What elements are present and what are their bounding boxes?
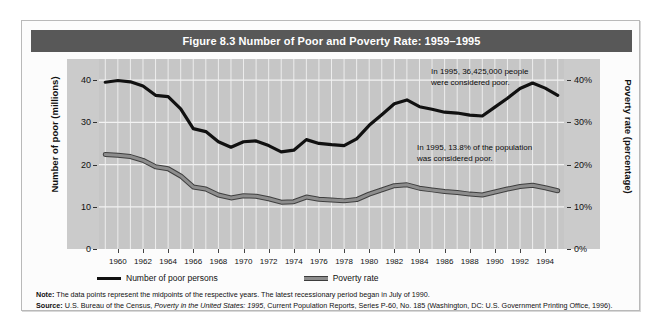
figure-container: Figure 8.3 Number of Poor and Poverty Ra… — [21, 20, 640, 311]
x-axis-ticks: 1960196219641966196819701972197419761978… — [99, 249, 564, 271]
y-axis-right-tick: 10% — [574, 202, 592, 212]
x-axis-tick-label: 1972 — [260, 257, 278, 266]
x-axis-tick-label: 1984 — [411, 257, 429, 266]
x-axis-tick-mark — [344, 249, 345, 253]
x-axis-tick-label: 1966 — [184, 257, 202, 266]
legend-item-poor-persons: Number of poor persons — [97, 273, 218, 283]
plot-block: Number of poor (millions) Poverty rate (… — [31, 59, 632, 264]
footnote-note-text: The data points represent the midpoints … — [54, 290, 429, 299]
y-axis-right-tick: 30% — [574, 117, 592, 127]
x-axis-tick-label: 1960 — [109, 257, 127, 266]
footnote-source-part1: U.S. Bureau of the Census, — [63, 301, 155, 310]
footnote-source-label: Source: — [36, 301, 63, 310]
footnote-note: Note: The data points represent the midp… — [36, 290, 628, 300]
x-axis-tick-mark — [168, 249, 169, 253]
y-axis-left-tick: 20 — [81, 160, 91, 170]
x-axis-tick-mark — [470, 249, 471, 253]
x-axis-tick-mark — [545, 249, 546, 253]
x-axis-tick-label: 1982 — [385, 257, 403, 266]
x-axis-tick-mark — [143, 249, 144, 253]
x-axis-tick-mark — [520, 249, 521, 253]
legend-label-poor-persons: Number of poor persons — [126, 273, 218, 283]
footnotes: Note: The data points represent the midp… — [36, 290, 628, 311]
y-axis-left-tick: 10 — [81, 202, 91, 212]
x-axis-tick-label: 1988 — [461, 257, 479, 266]
x-axis-tick-label: 1990 — [486, 257, 504, 266]
y-axis-left-tick: 0 — [86, 244, 91, 254]
x-axis-tick-label: 1970 — [235, 257, 253, 266]
y-axis-right-tick: 20% — [574, 160, 592, 170]
x-axis-tick-label: 1980 — [360, 257, 378, 266]
x-axis-tick-label: 1992 — [511, 257, 529, 266]
x-axis-tick-label: 1974 — [285, 257, 303, 266]
y-axis-right-tick: 0% — [574, 244, 587, 254]
x-axis-tick-mark — [294, 249, 295, 253]
x-axis-tick-mark — [445, 249, 446, 253]
y-axis-right-ticks: 0%10%20%30%40% — [564, 59, 600, 249]
y-axis-left-title: Number of poor (millions) — [49, 60, 60, 210]
x-axis-tick-mark — [419, 249, 420, 253]
x-axis-tick-mark — [193, 249, 194, 253]
y-axis-left-ticks: 010203040 — [67, 59, 99, 249]
annotation-poor-persons: In 1995, 36,425,000 people were consider… — [431, 67, 528, 88]
x-axis-tick-label: 1978 — [335, 257, 353, 266]
x-axis-tick-mark — [244, 249, 245, 253]
x-axis-tick-label: 1962 — [134, 257, 152, 266]
figure-title: Figure 8.3 Number of Poor and Poverty Ra… — [182, 35, 480, 47]
x-axis-tick-label: 1964 — [159, 257, 177, 266]
band-swatch-icon — [304, 276, 328, 281]
legend-label-poverty-rate: Poverty rate — [333, 273, 379, 283]
footnote-note-label: Note: — [36, 290, 54, 299]
x-axis-tick-mark — [118, 249, 119, 253]
legend-item-poverty-rate: Poverty rate — [304, 273, 379, 283]
x-axis-tick-mark — [319, 249, 320, 253]
figure-title-bar: Figure 8.3 Number of Poor and Poverty Ra… — [31, 30, 632, 52]
x-axis-tick-mark — [218, 249, 219, 253]
x-axis-tick-mark — [369, 249, 370, 253]
chart-legend: Number of poor persons Poverty rate — [97, 271, 379, 285]
y-axis-right-tick: 40% — [574, 75, 592, 85]
x-axis-tick-label: 1986 — [436, 257, 454, 266]
y-axis-left-tick: 30 — [81, 117, 91, 127]
footnote-source-title: Poverty in the United States: 1995 — [154, 301, 263, 310]
plot-area: In 1995, 36,425,000 people were consider… — [99, 59, 564, 249]
x-axis-tick-label: 1976 — [310, 257, 328, 266]
footnote-source-part2: , Current Population Reports, Series P-6… — [263, 301, 612, 310]
x-axis-tick-label: 1994 — [536, 257, 554, 266]
annotation-poverty-rate: In 1995, 13.8% of the population was con… — [417, 143, 532, 164]
line-swatch-icon — [97, 277, 121, 280]
x-axis-tick-label: 1968 — [209, 257, 227, 266]
y-axis-left-tick: 40 — [81, 75, 91, 85]
footnote-source: Source: U.S. Bureau of the Census, Pover… — [36, 301, 628, 311]
x-axis-tick-mark — [495, 249, 496, 253]
x-axis-tick-mark — [269, 249, 270, 253]
x-axis-tick-mark — [394, 249, 395, 253]
y-axis-right-title: Poverty rate (percentage) — [623, 57, 634, 217]
